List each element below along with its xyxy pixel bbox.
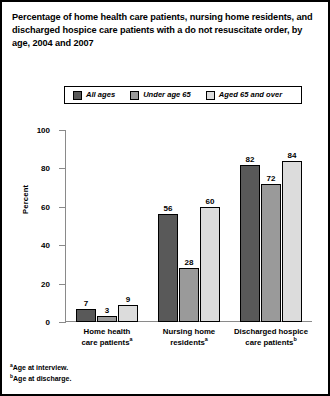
bar-group: 827284 [230, 130, 312, 322]
y-tick-40: 40 [59, 245, 66, 246]
bar-value-label: 7 [84, 299, 88, 308]
chart-figure: Percentage of home health care patients,… [0, 0, 330, 396]
legend-item-aged-65-and-over: Aged 65 and over [206, 91, 282, 100]
x-category-label-line1: Discharged hospice [221, 327, 321, 338]
legend-label-aged-65-and-over: Aged 65 and over [219, 91, 282, 99]
bar-value-label: 84 [288, 151, 297, 160]
bar: 28 [179, 268, 199, 322]
footnote-a-text: Age at interview. [13, 364, 68, 371]
y-axis-title: Percent [21, 185, 30, 214]
footnote-b-text: Age at discharge. [13, 375, 71, 382]
y-tick-label-100: 100 [37, 126, 50, 135]
bar: 7 [76, 309, 96, 322]
bar: 3 [97, 316, 117, 322]
bar: 9 [118, 305, 138, 322]
bar: 60 [200, 207, 220, 322]
legend-label-under-age-65: Under age 65 [143, 91, 191, 99]
y-tick-label-80: 80 [41, 164, 50, 173]
x-category-footnote-marker: a [130, 336, 133, 342]
chart-title: Percentage of home health care patients,… [12, 11, 320, 51]
footnote-b: bAge at discharge. [10, 374, 71, 385]
bar-group: 739 [66, 130, 148, 322]
bar-value-label: 3 [105, 306, 109, 315]
legend-label-all-ages: All ages [86, 91, 115, 99]
bar-value-label: 82 [246, 155, 255, 164]
plot-area: 020406080100 739562860827284 [66, 130, 312, 322]
bar: 84 [282, 161, 302, 322]
bar-value-label: 28 [185, 258, 194, 267]
bar: 72 [261, 184, 281, 322]
x-category-label: Discharged hospicecare patientsb [221, 327, 321, 348]
y-tick-20: 20 [59, 284, 66, 285]
bar-value-label: 9 [126, 295, 130, 304]
x-category-footnote-marker: a [205, 336, 208, 342]
y-tick-label-60: 60 [41, 202, 50, 211]
legend-swatch-all-ages [73, 91, 82, 100]
y-tick-label-20: 20 [41, 279, 50, 288]
bar-value-label: 72 [267, 174, 276, 183]
y-tick-label-0: 0 [46, 318, 50, 327]
y-tick-label-40: 40 [41, 241, 50, 250]
footnote-a: aAge at interview. [10, 363, 71, 374]
bar-value-label: 60 [206, 197, 215, 206]
chart-legend: All ages Under age 65 Aged 65 and over [64, 86, 302, 104]
legend-swatch-under-age-65 [130, 91, 139, 100]
x-category-label-line2: care patientsb [221, 338, 321, 349]
legend-swatch-aged-65-and-over [206, 91, 215, 100]
y-tick-80: 80 [59, 168, 66, 169]
legend-item-all-ages: All ages [73, 91, 115, 100]
footnotes: aAge at interview. bAge at discharge. [10, 363, 71, 384]
bar: 56 [158, 214, 178, 322]
y-tick-100: 100 [59, 130, 66, 131]
y-tick-60: 60 [59, 207, 66, 208]
bar-group: 562860 [148, 130, 230, 322]
bar: 82 [240, 165, 260, 322]
legend-item-under-age-65: Under age 65 [130, 91, 191, 100]
x-category-footnote-marker: b [293, 336, 296, 342]
y-tick-0: 0 [59, 322, 66, 323]
bar-value-label: 56 [164, 204, 173, 213]
